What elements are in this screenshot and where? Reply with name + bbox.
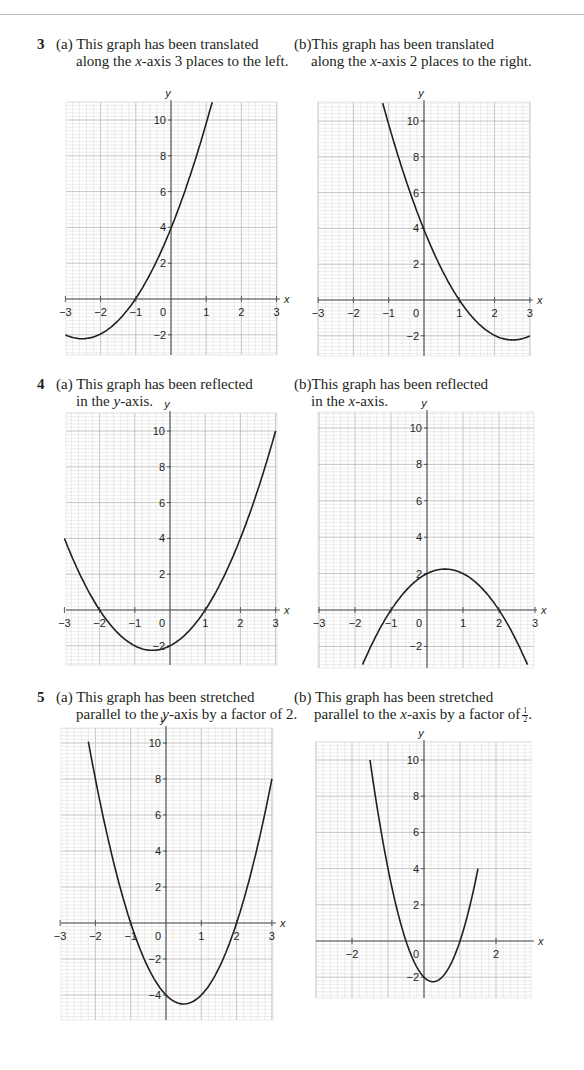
part-line1: This graph has been reflected xyxy=(312,376,489,392)
question-3b-text: (b)This graph has been translated along … xyxy=(294,36,532,70)
function-curve xyxy=(65,102,212,339)
y-tick-label: 10 xyxy=(407,115,419,127)
question-5b-text: (b) This graph has been stretched parall… xyxy=(294,689,532,724)
graph-4a: −3−2−11230−2246810xy xyxy=(0,0,584,1070)
x-tick-label: −2 xyxy=(346,948,359,960)
y-tick-label: −2 xyxy=(148,953,161,965)
x-tick-label: 1 xyxy=(456,307,462,319)
y-tick-label: 6 xyxy=(159,497,165,509)
part-line2-post: -axis by a factor of xyxy=(407,706,520,722)
function-curve xyxy=(363,569,528,665)
x-tick-label: 2 xyxy=(238,306,244,318)
x-tick-label: 3 xyxy=(274,306,280,318)
x-tick-label: 3 xyxy=(269,930,275,942)
origin-label: 0 xyxy=(160,306,166,318)
part-line2-post: -axis. xyxy=(120,393,153,409)
y-tick-label: 6 xyxy=(413,187,419,199)
x-tick-label: −1 xyxy=(124,930,137,942)
y-tick-label: 4 xyxy=(159,532,165,544)
x-axis-label: x xyxy=(279,917,286,929)
x-tick-label: −1 xyxy=(129,617,142,629)
y-axis-label: y xyxy=(417,87,425,99)
x-axis-label: x xyxy=(283,293,290,305)
y-tick-label: 10 xyxy=(410,422,422,434)
question-4b-text: (b)This graph has been reflected in the … xyxy=(294,376,488,410)
question-number-3: 3 xyxy=(37,36,45,53)
y-tick-label: 8 xyxy=(416,458,422,470)
x-tick-label: −3 xyxy=(54,930,67,942)
part-line2-var: x xyxy=(370,53,377,69)
y-tick-label: 2 xyxy=(413,899,419,911)
part-line2-pre: along the xyxy=(56,53,135,69)
function-curve xyxy=(383,103,530,340)
x-tick-label: 2 xyxy=(234,930,240,942)
top-rule xyxy=(0,14,584,15)
part-line2-pre: in the xyxy=(294,393,349,409)
y-tick-label: 4 xyxy=(160,221,166,233)
part-line2-post: -axis 3 places to the left. xyxy=(142,53,289,69)
part-line2-post: -axis. xyxy=(355,393,388,409)
x-tick-label: −1 xyxy=(130,306,143,318)
y-tick-label: −2 xyxy=(409,640,422,652)
x-tick-label: −2 xyxy=(347,307,360,319)
part-label: (b) xyxy=(294,36,312,52)
y-tick-label: −2 xyxy=(153,329,166,341)
x-tick-label: 1 xyxy=(202,617,208,629)
question-number-4: 4 xyxy=(37,376,45,393)
part-line2-pre: parallel to the xyxy=(56,706,162,722)
x-tick-label: 2 xyxy=(237,617,243,629)
part-line1: This graph has been reflected xyxy=(76,376,253,392)
x-axis-label: x xyxy=(537,935,544,947)
axes: −3−2−11230−2246810xy xyxy=(313,397,547,668)
y-axis-label: y xyxy=(164,87,172,99)
y-tick-label: 8 xyxy=(155,773,161,785)
graph-3b: −3−2−11230−2246810xy xyxy=(0,0,584,1070)
question-4a-text: (a) This graph has been reflected in the… xyxy=(56,376,253,410)
grid xyxy=(66,102,277,355)
y-tick-label: −2 xyxy=(406,971,419,983)
x-tick-label: 1 xyxy=(203,306,209,318)
part-label: (a) xyxy=(56,36,73,52)
x-tick-label: −1 xyxy=(385,617,398,629)
part-label: (b) xyxy=(294,376,312,392)
x-tick-label: 1 xyxy=(198,930,204,942)
axes: −220−2246810xy xyxy=(316,727,544,998)
part-line2-pre: along the xyxy=(294,53,370,69)
x-tick-label: 1 xyxy=(460,617,466,629)
grid xyxy=(61,728,273,1020)
grid xyxy=(318,412,534,668)
x-tick-label: −3 xyxy=(312,307,325,319)
axes: −3−2−11230−2246810xy xyxy=(312,87,543,356)
part-trailing: . xyxy=(528,706,532,722)
y-tick-label: 2 xyxy=(416,568,422,580)
y-tick-label: −2 xyxy=(152,640,165,652)
part-line1: This graph has been translated xyxy=(312,36,494,52)
graph-5a: −3−2−11230−4−2246810xy xyxy=(0,0,584,1070)
origin-label: 0 xyxy=(416,617,422,629)
y-tick-label: 2 xyxy=(413,258,419,270)
part-line2-pre: in the xyxy=(56,393,114,409)
x-tick-label: 3 xyxy=(532,617,538,629)
origin-label: 0 xyxy=(159,617,165,629)
graph-3a: −3−2−11230−2246810xy xyxy=(0,0,584,1070)
question-number-5: 5 xyxy=(37,689,45,706)
x-axis-label: x xyxy=(540,604,547,616)
origin-label: 0 xyxy=(413,307,419,319)
y-tick-label: 10 xyxy=(149,737,161,749)
y-tick-label: 10 xyxy=(154,114,166,126)
y-tick-label: 6 xyxy=(160,186,166,198)
part-line1: This graph has been stretched xyxy=(76,689,254,705)
x-tick-label: −3 xyxy=(313,617,326,629)
x-tick-label: −3 xyxy=(59,306,72,318)
x-tick-label: −3 xyxy=(58,617,71,629)
part-line2-post: -axis 2 places to the right. xyxy=(377,53,532,69)
part-label: (b) xyxy=(294,689,312,705)
graph-5b: −220−2246810xy xyxy=(0,0,584,1070)
x-tick-label: −2 xyxy=(94,306,107,318)
x-axis-label: x xyxy=(283,604,290,616)
part-line2-var: y xyxy=(162,706,169,722)
x-tick-label: −2 xyxy=(89,930,102,942)
y-tick-label: 4 xyxy=(155,845,161,857)
grid xyxy=(316,742,531,998)
y-axis-label: y xyxy=(417,727,425,739)
